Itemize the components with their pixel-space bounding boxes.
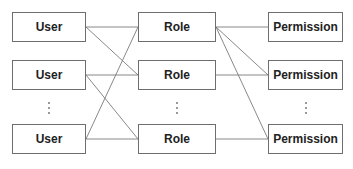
role-node-2: Role xyxy=(138,60,216,90)
role-node-1: Role xyxy=(138,12,216,42)
edge-u3-r1 xyxy=(86,27,138,139)
permission-node-1: Permission xyxy=(268,12,343,42)
permission-ellipsis-icon xyxy=(305,102,307,117)
permission-node-3: Permission xyxy=(268,124,343,154)
edge-r1-p2 xyxy=(216,27,268,75)
user-node-3: User xyxy=(12,124,86,154)
edge-r1-p3 xyxy=(216,27,268,139)
role-ellipsis-icon xyxy=(176,102,178,117)
permission-node-2: Permission xyxy=(268,60,343,90)
edge-u1-r2 xyxy=(86,27,138,75)
edge-u2-r3 xyxy=(86,75,138,139)
role-node-3: Role xyxy=(138,124,216,154)
user-node-2: User xyxy=(12,60,86,90)
user-node-1: User xyxy=(12,12,86,42)
user-ellipsis-icon xyxy=(48,102,50,117)
